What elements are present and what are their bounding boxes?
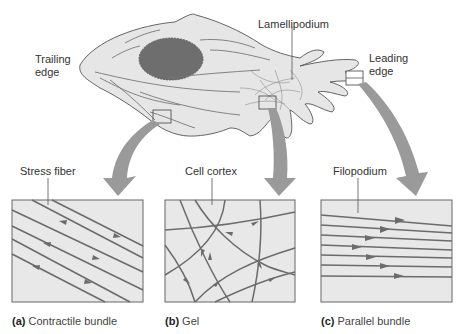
caption-b-text: Gel: [182, 315, 199, 327]
nucleus: [139, 38, 203, 80]
stress-fiber-label: Stress fiber: [20, 165, 76, 178]
trailing-edge-label-line1: Trailing: [35, 53, 71, 66]
leading-edge-label: Leading edge: [369, 52, 408, 78]
caption-a-letter: (a): [12, 315, 25, 327]
cell-cortex-label: Cell cortex: [185, 165, 237, 178]
panel-c-parallel-bundle: [321, 178, 452, 302]
filopodium-label: Filopodium: [333, 165, 387, 178]
zoom-arrow-c: [358, 82, 428, 196]
panel-a-contractile-bundle: [12, 178, 143, 302]
caption-c-text: Parallel bundle: [338, 315, 411, 327]
caption-a-text: Contractile bundle: [29, 315, 118, 327]
caption-c-letter: (c): [321, 315, 334, 327]
zoom-arrow-a: [103, 120, 160, 196]
lamellipodium-label: Lamellipodium: [258, 18, 329, 31]
panel-b-gel: [165, 178, 295, 302]
leading-edge-label-line2: edge: [369, 65, 408, 78]
caption-b: (b) Gel: [165, 315, 199, 327]
cell-body: [80, 14, 362, 138]
caption-c: (c) Parallel bundle: [321, 315, 410, 327]
trailing-edge-label: Trailing edge: [35, 53, 71, 79]
leading-edge-label-line1: Leading: [369, 52, 408, 65]
caption-b-letter: (b): [165, 315, 179, 327]
caption-a: (a) Contractile bundle: [12, 315, 117, 327]
trailing-edge-label-line2: edge: [35, 66, 71, 79]
